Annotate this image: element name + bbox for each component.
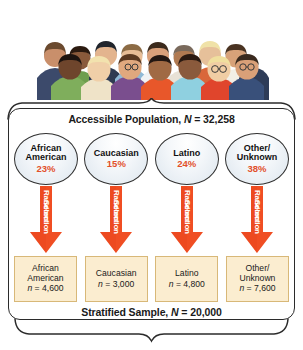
down-arrow-icon [29,186,63,254]
stratum-name-line2: American [25,153,66,163]
stratum-percent: 23% [36,164,55,174]
sample-name: Caucasian [96,269,137,279]
stratum-percent: 38% [247,164,266,174]
sample-name-line1: Caucasian [96,269,137,279]
stratum-name-line1: Latino [173,149,200,159]
sample-name: Latino [175,269,198,279]
down-arrow-icon [170,186,204,254]
stratum-other-unknown: Other/ Unknown 38% [225,133,289,185]
sample-box-other-unknown: Other/ Unknown n = 7,600 [226,256,289,302]
stratum-content: African American 23% [14,133,78,185]
sample-name-line2: Unknown [240,274,276,284]
accessible-population-text: Accessible Population, [68,113,184,125]
sample-brace-svg [14,318,289,344]
stratum-name: Other/ Unknown [237,144,278,163]
stratum-percent: 15% [107,159,126,169]
crowd-illustration [33,8,270,100]
stratum-name-line1: Caucasian [94,149,139,159]
sample-n-value: = 3,000 [103,279,134,289]
crowd-illustration-svg [33,8,270,100]
sample-box-african-american: African American n = 4,600 [14,256,77,302]
stratified-sample-n-value: = 20,000 [179,306,222,318]
stratified-sample-text: Stratified Sample, [81,306,171,318]
stratum-name: Caucasian [94,149,139,159]
stratum-name: African American [25,144,66,163]
sample-brace [14,318,289,344]
sample-n-value: = 4,800 [174,279,205,289]
stratified-sample-label: Stratified Sample, N = 20,000 [0,306,303,318]
sample-n-value: = 4,600 [32,283,63,293]
sample-n: n = 4,600 [27,284,63,294]
sample-box-latino: Latino n = 4,800 [155,256,218,302]
arrow-cell-african-american: Random Selection [14,186,78,254]
arrow-cell-latino: Random Selection [155,186,219,254]
sample-box-caucasian: Caucasian n = 3,000 [85,256,148,302]
random-selection-arrow-row: Random Selection Random Selection [14,186,289,254]
stratified-sample-n-symbol: N [171,306,178,318]
stratum-content: Caucasian 15% [84,133,148,185]
sample-box-row: African American n = 4,600 Caucasian n =… [14,256,289,302]
stratum-latino: Latino 24% [155,133,219,185]
stratum-content: Other/ Unknown 38% [225,133,289,185]
arrow-cell-other-unknown: Random Selection [225,186,289,254]
sample-name-line1: Latino [175,269,198,279]
accessible-population-label: Accessible Population, N = 32,258 [0,113,303,125]
stratum-name: Latino [173,149,200,159]
sample-name-line2: American [27,274,63,284]
stratum-caucasian: Caucasian 15% [84,133,148,185]
stratum-african-american: African American 23% [14,133,78,185]
strata-row: African American 23% Caucasian 15% Latin… [14,133,289,185]
sample-n: n = 4,800 [169,280,205,290]
figure-root: Accessible Population, N = 32,258 Africa… [0,0,303,350]
stratum-content: Latino 24% [155,133,219,185]
sample-name: African American [27,264,63,284]
sample-n-value: = 7,600 [244,283,275,293]
down-arrow-icon [240,186,274,254]
arrow-cell-caucasian: Random Selection [84,186,148,254]
sample-n: n = 3,000 [98,280,134,290]
stratum-name-line2: Unknown [237,153,278,163]
accessible-population-n-value: = 32,258 [191,113,234,125]
down-arrow-icon [99,186,133,254]
stratum-percent: 24% [177,159,196,169]
sample-name: Other/ Unknown [240,264,276,284]
sample-n: n = 7,600 [239,284,275,294]
